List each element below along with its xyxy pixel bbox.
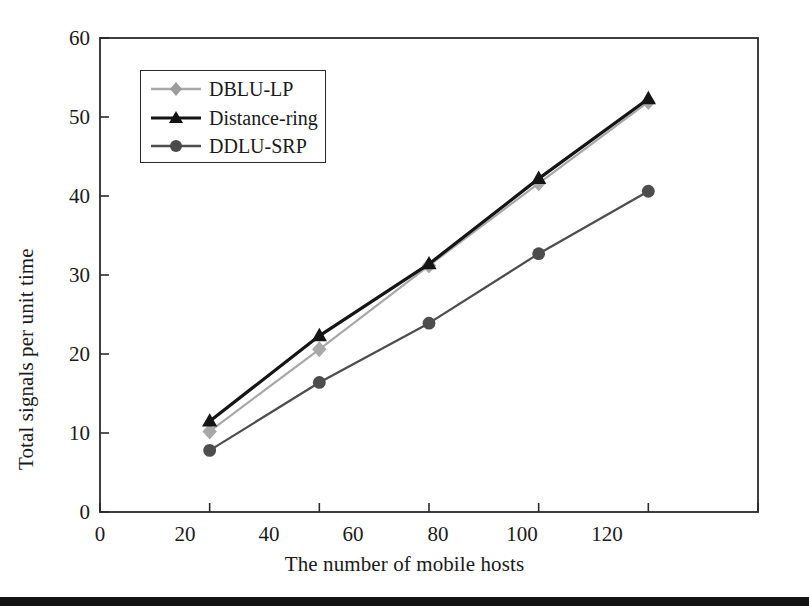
page-footer-bar [0, 597, 809, 606]
series-ddlu-srp [203, 185, 654, 457]
legend-item-distance-ring[interactable]: Distance-ring [149, 104, 318, 132]
plot-area [0, 0, 809, 610]
legend-label-distance-ring: Distance-ring [209, 108, 318, 128]
legend-swatch-circle-icon [149, 137, 203, 155]
legend-swatch-diamond-icon [149, 80, 203, 98]
legend-item-ddlu-srp[interactable]: DDLU-SRP [149, 132, 307, 160]
legend-label-ddlu-srp: DDLU-SRP [209, 136, 307, 156]
legend-label-dblu-lp: DBLU-LP [209, 79, 293, 99]
legend-item-dblu-lp[interactable]: DBLU-LP [149, 75, 293, 103]
legend: DBLU-LP Distance-ring DDLU-SRP [140, 70, 326, 163]
chart-figure: Total signals per unit time The number o… [0, 0, 809, 610]
legend-swatch-triangle-icon [149, 109, 203, 127]
